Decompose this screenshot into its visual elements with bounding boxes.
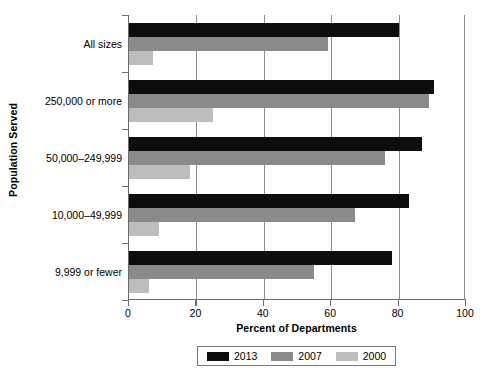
legend-label: 2013 (234, 350, 257, 362)
bar (129, 279, 149, 293)
x-tick-label: 20 (190, 307, 202, 319)
bar (129, 265, 314, 279)
x-tick-label: 100 (456, 307, 474, 319)
bar-chart-figure: Population Served All sizes250,000 or mo… (0, 0, 487, 376)
bar (129, 251, 392, 265)
y-tick-label: 9,999 or fewer (55, 266, 122, 278)
x-axis-line (128, 299, 466, 300)
x-tick-label: 40 (257, 307, 269, 319)
bar (129, 23, 399, 37)
bar-group (129, 23, 466, 65)
x-tickmark (465, 300, 466, 306)
legend-label: 2007 (298, 350, 321, 362)
y-axis-tick-labels: All sizes250,000 or more50,000–249,99910… (24, 15, 124, 300)
x-tickmark (195, 300, 196, 306)
bar-group (129, 80, 466, 122)
bar (129, 165, 190, 179)
y-tick-label: 50,000–249,999 (46, 152, 122, 164)
legend-item: 2013 (207, 350, 257, 362)
legend-swatch-icon (271, 352, 293, 361)
bar (129, 80, 434, 94)
bar-group (129, 251, 466, 293)
x-tickmark (330, 300, 331, 306)
bar-group (129, 137, 466, 179)
legend-item: 2000 (336, 350, 386, 362)
legend-swatch-icon (336, 352, 358, 361)
bar (129, 94, 429, 108)
legend: 201320072000 (197, 346, 396, 366)
bar (129, 151, 385, 165)
bar (129, 51, 153, 65)
plot-right-border (464, 15, 465, 300)
x-tickmark (128, 300, 129, 306)
y-tick-label: All sizes (83, 38, 122, 50)
bar (129, 137, 422, 151)
plot-area (128, 15, 466, 300)
legend-swatch-icon (207, 352, 229, 361)
bar (129, 222, 159, 236)
legend-label: 2000 (363, 350, 386, 362)
x-tick-label: 0 (125, 307, 131, 319)
legend-item: 2007 (271, 350, 321, 362)
x-tick-label: 60 (324, 307, 336, 319)
bar (129, 194, 409, 208)
y-axis-title: Population Served (2, 0, 24, 300)
bar (129, 208, 355, 222)
x-tick-label: 80 (392, 307, 404, 319)
x-tickmark (398, 300, 399, 306)
bar (129, 37, 328, 51)
x-axis-title: Percent of Departments (128, 322, 465, 334)
bar-group (129, 194, 466, 236)
bar (129, 108, 213, 122)
y-tick-label: 10,000–49,999 (52, 209, 122, 221)
x-tickmark (263, 300, 264, 306)
y-axis-title-text: Population Served (7, 103, 19, 197)
y-tick-label: 250,000 or more (45, 95, 122, 107)
